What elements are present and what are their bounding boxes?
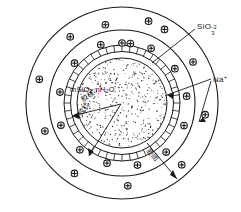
stipple-dot	[119, 58, 120, 59]
stipple-dot	[110, 134, 111, 135]
stipple-dot	[121, 109, 122, 110]
stipple-dot	[94, 75, 95, 76]
stipple-dot	[87, 125, 88, 126]
stipple-dot	[143, 132, 144, 133]
adsorption-tick	[69, 79, 75, 82]
stipple-dot	[98, 103, 99, 104]
stipple-dot	[105, 95, 106, 96]
stipple-dot	[126, 116, 127, 117]
stipple-dot	[94, 97, 95, 98]
stipple-dot	[140, 112, 141, 113]
stipple-dot	[104, 141, 105, 142]
stipple-dot	[163, 117, 164, 118]
stipple-dot	[159, 99, 160, 100]
stipple-dot	[152, 74, 153, 75]
stipple-dot	[140, 139, 141, 140]
stipple-dot	[126, 95, 127, 96]
stipple-dot	[131, 141, 132, 142]
adsorption-tick	[171, 87, 178, 89]
stipple-dot	[118, 87, 119, 88]
stipple-dot	[131, 87, 132, 88]
stipple-dot	[112, 111, 113, 112]
leader-line-particle	[89, 104, 121, 156]
stipple-dot	[115, 133, 116, 134]
stipple-dot	[122, 128, 123, 129]
stipple-dot	[119, 84, 120, 85]
stipple-dot	[106, 99, 107, 100]
adsorption-tick	[65, 95, 72, 96]
stipple-dot	[92, 132, 93, 133]
stipple-dot	[134, 135, 135, 136]
stipple-dot	[145, 101, 146, 102]
stipple-dot	[122, 60, 123, 61]
stipple-dot	[148, 129, 149, 130]
stipple-dot	[125, 128, 126, 129]
stipple-dot	[133, 63, 134, 64]
sodium-ion-outer	[36, 76, 43, 83]
stipple-dot	[124, 73, 125, 74]
stipple-dot	[97, 124, 98, 125]
stipple-dot	[118, 95, 119, 96]
stipple-dot	[93, 73, 94, 74]
stipple-dot	[119, 134, 120, 135]
stipple-dot	[135, 87, 136, 88]
stipple-dot	[143, 77, 144, 78]
stipple-dot	[148, 137, 149, 138]
sodium-ion-inner	[97, 41, 104, 48]
stipple-dot	[135, 73, 136, 74]
stipple-dot	[87, 116, 88, 117]
stipple-dot	[86, 120, 87, 121]
stipple-dot	[136, 99, 137, 100]
stipple-dot	[123, 70, 124, 71]
stipple-dot	[133, 65, 134, 66]
stipple-dot	[88, 123, 89, 124]
stipple-dot	[135, 113, 136, 114]
stipple-dot	[161, 114, 162, 115]
adsorption-tick	[150, 54, 154, 60]
sodium-ion-inner	[58, 122, 65, 129]
stipple-dot	[100, 125, 101, 126]
stipple-dot	[150, 76, 151, 77]
sodium-formula-base: Na	[213, 75, 224, 84]
stipple-dot	[112, 110, 113, 111]
stipple-dot	[135, 71, 136, 72]
stipple-dot	[131, 64, 132, 65]
stipple-dot	[137, 78, 138, 79]
stipple-dot	[135, 63, 136, 64]
stipple-dot	[104, 79, 105, 80]
stipple-dot	[89, 106, 90, 107]
stipple-dot	[162, 97, 163, 98]
sodium-ion-inner	[163, 149, 170, 156]
sodium-ion-inner	[183, 93, 190, 100]
stipple-dot	[160, 118, 161, 119]
adsorption-tick	[106, 47, 108, 54]
stipple-dot	[145, 105, 146, 106]
stipple-dot	[145, 99, 146, 100]
stipple-dot	[135, 122, 136, 123]
sodium-ion-outer	[71, 170, 78, 177]
stipple-dot	[118, 59, 119, 60]
stipple-dot	[143, 119, 144, 120]
stipple-dot	[118, 145, 119, 146]
stipple-dot	[98, 73, 99, 74]
core-formula-part2: ·nH	[93, 85, 106, 94]
stipple-dot	[143, 80, 144, 81]
stipple-dot	[105, 67, 106, 68]
stipple-dot	[90, 126, 91, 127]
stipple-dot	[105, 132, 106, 133]
stipple-dot	[115, 135, 116, 136]
stipple-dot	[155, 81, 156, 82]
stipple-dot	[122, 107, 123, 108]
stipple-dot	[97, 103, 98, 104]
stipple-dot	[109, 141, 110, 142]
stipple-dot	[92, 114, 93, 115]
stipple-dot	[128, 110, 129, 111]
stipple-dot	[137, 116, 138, 117]
stipple-dot	[144, 73, 145, 74]
stipple-dot	[116, 79, 117, 80]
stipple-dot	[139, 133, 140, 134]
stipple-dot	[114, 122, 115, 123]
stipple-dot	[128, 121, 129, 122]
stipple-dot	[165, 95, 166, 96]
stipple-dot	[126, 129, 127, 130]
